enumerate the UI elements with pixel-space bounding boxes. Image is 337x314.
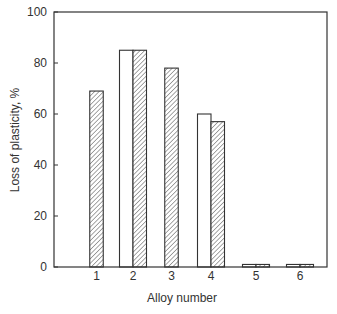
x-axis-label: Alloy number [147,291,217,305]
x-tick-label: 5 [253,269,260,283]
x-axis: 123456 [93,269,304,283]
y-tick-label: 20 [34,209,48,223]
bar-chart: 020406080100 123456 Alloy number Loss of… [0,0,337,314]
y-axis: 020406080100 [27,5,58,274]
x-tick-label: 6 [297,269,304,283]
x-tick-label: 2 [130,269,137,283]
bar-hatched-alloy-1 [90,91,104,267]
y-tick-label: 40 [34,158,48,172]
y-tick-label: 60 [34,107,48,121]
bar-hatched-alloy-3 [165,68,179,267]
bars-group [90,50,314,267]
bar-open-alloy-2 [120,50,134,267]
bar-open-alloy-4 [198,114,212,267]
x-tick-label: 1 [93,269,100,283]
x-tick-label: 3 [168,269,175,283]
y-tick-label: 0 [40,260,47,274]
y-tick-label: 80 [34,56,48,70]
bar-hatched-alloy-4 [211,122,225,267]
y-tick-label: 100 [27,5,47,19]
bar-hatched-alloy-2 [133,50,147,267]
x-tick-label: 4 [208,269,215,283]
y-axis-label: Loss of plasticity, % [8,87,22,192]
